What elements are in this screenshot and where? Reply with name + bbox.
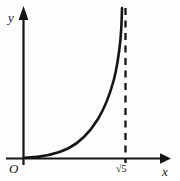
y-axis-arrowhead [19,6,29,20]
function-curve [25,8,123,158]
asymptote-tick-label: √5 [116,163,127,174]
figure-canvas: y x O √5 [0,0,180,181]
y-axis-label: y [6,10,14,25]
origin-label: O [9,161,19,176]
math-figure: y x O √5 [0,0,180,181]
x-axis-label: x [161,164,168,179]
x-axis-arrowhead [160,153,171,164]
